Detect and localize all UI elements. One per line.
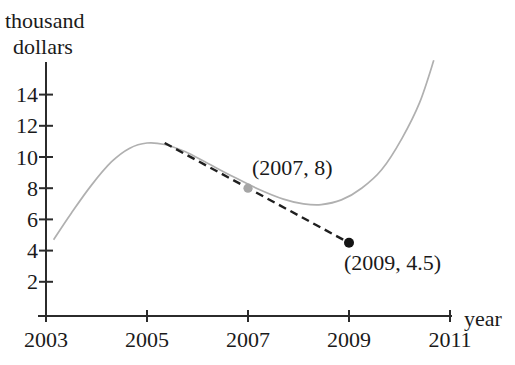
y-axis-title-line2: dollars — [13, 34, 73, 59]
x-axis-tick-label: 2009 — [327, 327, 371, 352]
point-marker-2007 — [243, 184, 252, 193]
y-axis-tick-label: 4 — [27, 238, 38, 263]
point-label-2007: (2007, 8) — [252, 155, 333, 180]
y-axis-tick-label: 8 — [27, 176, 38, 201]
x-axis-tick-label: 2011 — [428, 327, 471, 352]
y-axis-tick-label: 14 — [16, 82, 38, 107]
x-axis-tick-label: 2007 — [226, 327, 270, 352]
amount-curve — [54, 60, 434, 239]
y-axis-tick-label: 10 — [16, 145, 38, 170]
y-axis-tick-label: 12 — [16, 113, 38, 138]
x-axis-tick-label: 2003 — [24, 327, 68, 352]
y-axis-ticks: 2468101214 — [16, 82, 53, 294]
chart-svg: thousand dollars year 2468101214 2003200… — [0, 0, 515, 365]
y-axis-title-line1: thousand — [5, 8, 84, 33]
y-axis-tick-label: 6 — [27, 207, 38, 232]
plotted-curves — [54, 60, 434, 243]
point-label-2009: (2009, 4.5) — [344, 250, 441, 275]
y-axis-tick-label: 2 — [27, 269, 38, 294]
x-axis-tick-label: 2005 — [125, 327, 169, 352]
point-marker-2009 — [344, 238, 354, 248]
graph-figure: thousand dollars year 2468101214 2003200… — [0, 0, 515, 365]
point-markers-and-labels: (2007, 8)(2009, 4.5) — [243, 155, 441, 275]
